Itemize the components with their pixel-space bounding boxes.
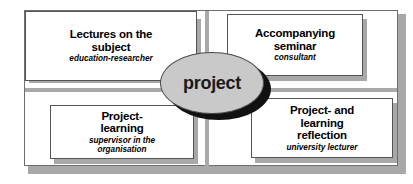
reflection-title: Project- and learning reflection: [290, 104, 354, 142]
reflection-role: university lecturer: [287, 143, 358, 153]
project-learning-role: supervisor in the organisation: [89, 136, 155, 155]
lectures-title: Lectures on the subject: [70, 28, 153, 53]
lectures-role: education-researcher: [69, 54, 152, 64]
project-ellipse-label: project: [183, 73, 241, 94]
project-learning-title: Project- learning: [100, 110, 143, 135]
seminar-role: consultant: [274, 53, 315, 63]
box-project-learning[interactable]: Project- learning supervisor in the orga…: [50, 105, 194, 159]
project-ellipse[interactable]: project: [160, 52, 264, 114]
seminar-title: Accompanying seminar: [255, 27, 335, 52]
project-diagram: Lectures on the subject education-resear…: [0, 0, 413, 184]
box-project-learning-reflection[interactable]: Project- and learning reflection univers…: [251, 98, 393, 158]
